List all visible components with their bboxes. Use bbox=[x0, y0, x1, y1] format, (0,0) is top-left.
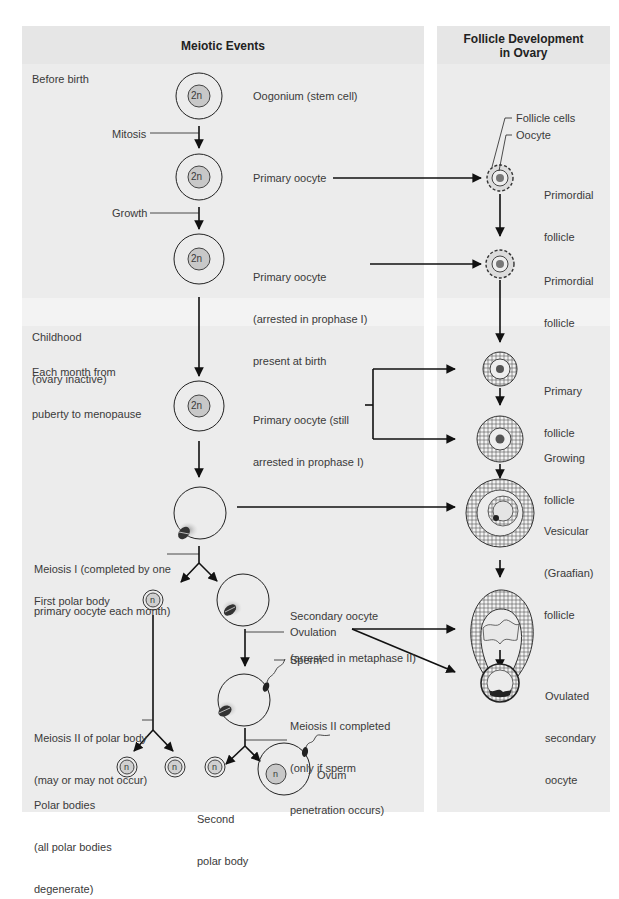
label-secondary-oocyte-line1: Secondary oocyte bbox=[290, 609, 416, 623]
label-primordial-follicle-2: Primordial follicle bbox=[544, 246, 594, 344]
label-primary-oocyte-still: Primary oocyte (still arrested in propha… bbox=[253, 385, 364, 483]
meiosis2-arrow-ovum bbox=[245, 746, 260, 761]
label-meiosis2: Meiosis II completed (only if sperm pene… bbox=[290, 691, 390, 831]
stage-monthly-line1: Each month from bbox=[32, 365, 141, 379]
label-vesicular-follicle: Vesicular (Graafian) follicle bbox=[544, 496, 594, 636]
ploidy-oogonium: 2n bbox=[191, 89, 202, 103]
label-growth: Growth bbox=[112, 206, 147, 220]
label-primary-oocyte-arrested-line1: Primary oocyte bbox=[253, 270, 367, 284]
primordial-follicle-1 bbox=[487, 165, 513, 191]
label-ovulation: Ovulation bbox=[290, 625, 336, 639]
label-meiosis2-polar-line2: (may or may not occur) bbox=[34, 773, 147, 787]
fertilized-oocyte-cell bbox=[216, 659, 285, 726]
label-primary-oocyte: Primary oocyte bbox=[253, 171, 326, 185]
label-growing-follicle-line1: Growing bbox=[544, 451, 585, 465]
meiosis2-arrow-polar bbox=[226, 746, 245, 764]
label-primary-oocyte-arrested-line3: present at birth bbox=[253, 354, 367, 368]
label-follicle-cells: Follicle cells bbox=[516, 111, 575, 125]
label-primary-oocyte-arrested-line2: (arrested in prophase I) bbox=[253, 312, 367, 326]
label-primary-oocyte-still-line2: arrested in prophase I) bbox=[253, 455, 364, 469]
label-meiosis1-line2: primary oocyte each month) bbox=[34, 604, 171, 618]
label-mitosis: Mitosis bbox=[112, 127, 146, 141]
label-meiosis1-line1: Meiosis I (completed by one bbox=[34, 562, 171, 576]
label-oogonium: Oogonium (stem cell) bbox=[253, 89, 358, 103]
label-ovulated-line2: secondary bbox=[545, 731, 596, 745]
label-primordial-2-line2: follicle bbox=[544, 316, 594, 330]
ruptured-follicle bbox=[471, 590, 533, 676]
label-second-polar-body-line1: Second bbox=[197, 812, 248, 826]
label-primordial-1-line1: Primordial bbox=[544, 188, 594, 202]
meiosis1-arrow-polar bbox=[181, 546, 199, 582]
stage-monthly-line2: puberty to menopause bbox=[32, 407, 141, 421]
ploidy-primary-oocyte: 2n bbox=[191, 170, 202, 184]
label-second-polar-body: Second polar body bbox=[197, 784, 248, 882]
label-vesicular-line3: follicle bbox=[544, 608, 594, 622]
label-oocyte-callout: Oocyte bbox=[516, 128, 551, 142]
label-meiosis2-line3: penetration occurs) bbox=[290, 803, 390, 817]
label-second-polar-body-line2: polar body bbox=[197, 854, 248, 868]
label-vesicular-line1: Vesicular bbox=[544, 524, 594, 538]
label-polar-bodies-line3: degenerate) bbox=[34, 882, 112, 896]
stage-before-birth: Before birth bbox=[32, 72, 89, 86]
label-primordial-2-line1: Primordial bbox=[544, 274, 594, 288]
ploidy-primary-oocyte-arrested: 2n bbox=[191, 252, 202, 266]
meiosis1-arrow-secondary bbox=[199, 563, 217, 581]
label-meiosis2-line2: (only if sperm bbox=[290, 761, 390, 775]
ploidy-ovum: n bbox=[273, 767, 278, 781]
label-ovulated-secondary-oocyte: Ovulated secondary oocyte bbox=[545, 661, 596, 801]
label-primary-oocyte-still-line1: Primary oocyte (still bbox=[253, 413, 364, 427]
growing-follicle bbox=[477, 416, 523, 462]
meiosis1-cell bbox=[174, 487, 226, 542]
ploidy-polar-body-2: n bbox=[172, 760, 177, 774]
label-meiosis2-polar: Meiosis II of polar body (may or may not… bbox=[34, 703, 147, 801]
label-polar-bodies-line2: (all polar bodies bbox=[34, 840, 112, 854]
label-ovulated-line1: Ovulated bbox=[545, 689, 596, 703]
ploidy-second-polar-body: n bbox=[212, 760, 217, 774]
ovulated-secondary-oocyte bbox=[481, 664, 519, 702]
label-sperm: Sperm bbox=[290, 653, 322, 667]
label-ovulated-line3: oocyte bbox=[545, 773, 596, 787]
label-meiosis2-polar-line1: Meiosis II of polar body bbox=[34, 731, 147, 745]
primary-follicle bbox=[483, 352, 517, 386]
label-meiosis1: Meiosis I (completed by one primary oocy… bbox=[34, 534, 171, 632]
label-primary-follicle-line1: Primary bbox=[544, 384, 582, 398]
polar-split-right bbox=[153, 730, 173, 751]
label-vesicular-line2: (Graafian) bbox=[544, 566, 594, 580]
primordial-follicle-2 bbox=[486, 250, 514, 278]
label-primordial-1-line2: follicle bbox=[544, 230, 594, 244]
label-primordial-follicle-1: Primordial follicle bbox=[544, 160, 594, 258]
label-primary-oocyte-arrested: Primary oocyte (arrested in prophase I) … bbox=[253, 242, 367, 382]
vesicular-follicle bbox=[466, 479, 534, 547]
stage-monthly: Each month from puberty to menopause bbox=[32, 337, 141, 435]
ploidy-primary-oocyte-still: 2n bbox=[191, 399, 202, 413]
follicle-cells-leader bbox=[492, 118, 512, 167]
secondary-oocyte-cell bbox=[217, 574, 269, 626]
label-meiosis2-line1: Meiosis II completed bbox=[290, 719, 390, 733]
